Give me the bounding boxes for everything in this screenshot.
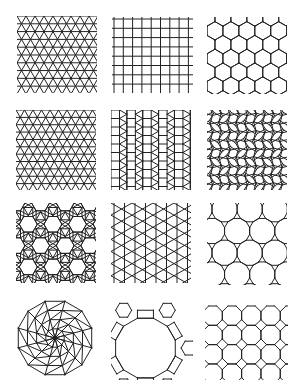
tiling-panel-snub-hexagonal: Snub hexagonal tiling (3.3.3.3.6) [16,110,96,190]
hexagonal-tiling-graphic: Hexagonal tiling (6.6.6) [207,17,287,94]
tiling-panel-triangular: Triangular tiling (3.3.3.3.3.3) [17,16,97,93]
trihexagonal-tiling-graphic: Trihexagonal tiling (3.6.3.6) [111,203,191,283]
elongated-triangular-tiling-graphic: Elongated triangular tiling (3.3.3.4.4) [111,110,191,190]
tiling-panel-trihexagonal: Trihexagonal tiling (3.6.3.6) [111,203,191,283]
tiling-panel-radial-dodecagon: Radial 12-fold dissection [15,298,95,378]
tiling-panel-truncated-hexagonal: Truncated hexagonal tiling (3.12.12) [207,203,287,285]
truncated-square-tiling-graphic: Truncated square tiling (4.8.8) [205,300,288,380]
tiling-panel-truncated-trihexagonal: Truncated trihexagonal tiling (4.6.12) [111,296,193,380]
tiling-panel-elongated-triangular: Elongated triangular tiling (3.3.3.4.4) [111,110,191,190]
snub-hexagonal-tiling-graphic: Snub hexagonal tiling (3.3.3.3.6) [16,110,96,190]
tiling-panel-snub-square: Snub square tiling (3.3.4.3.4) [207,110,287,190]
square-tiling-graphic: Square tiling (4.4.4.4) [112,17,193,93]
truncated-trihexagonal-tiling-graphic: Truncated trihexagonal tiling (4.6.12) [111,296,193,380]
triangular-tiling-graphic: Triangular tiling (3.3.3.3.3.3) [17,16,97,93]
tiling-panel-square: Square tiling (4.4.4.4) [112,17,193,93]
tiling-panel-rhombitrihexagonal: Rhombitrihexagonal tiling (3.4.6.4) [16,203,96,283]
rhombitrihexagonal-tiling-graphic: Rhombitrihexagonal tiling (3.4.6.4) [16,203,96,283]
radial-dodecagon-tiling-graphic: Radial 12-fold dissection [15,298,95,378]
tiling-panel-truncated-square: Truncated square tiling (4.8.8) [205,300,288,380]
truncated-hexagonal-tiling-graphic: Truncated hexagonal tiling (3.12.12) [207,203,287,285]
snub-square-tiling-graphic: Snub square tiling (3.3.4.3.4) [207,110,287,190]
tiling-panel-hexagonal: Hexagonal tiling (6.6.6) [207,17,287,94]
